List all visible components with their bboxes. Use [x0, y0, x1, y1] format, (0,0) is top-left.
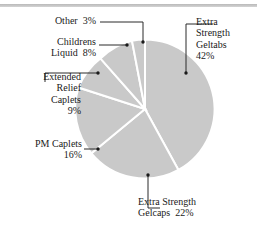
slice-label-extra-strength-geltabs: Extra Strength Geltabs 42%: [196, 16, 230, 62]
leader-line-other: [100, 22, 143, 42]
slice-label-childrens-liquid: Childrens Liquid 8%: [4, 36, 96, 59]
pie-chart-figure: Extra Strength Geltabs 42% Other 3% Chil…: [0, 0, 257, 233]
slice-label-pm-caplets: PM Caplets 16%: [2, 138, 82, 161]
leader-dot-childrens-liquid: [125, 43, 128, 46]
leader-dot-pm-caplets: [96, 147, 99, 150]
pie-slices: [75, 39, 214, 178]
slice-label-extra-strength-gelcaps: Extra Strength Gelcaps 22%: [138, 196, 196, 219]
leader-dot-other: [141, 40, 144, 43]
slice-label-extended-relief-caplets: Extended Relief Caplets 9%: [2, 71, 81, 117]
slice-label-other: Other 3%: [22, 15, 96, 26]
leader-dot-gelcaps: [146, 173, 149, 176]
leader-dot-geltabs: [184, 71, 187, 74]
leader-dot-extended-relief: [96, 71, 99, 74]
